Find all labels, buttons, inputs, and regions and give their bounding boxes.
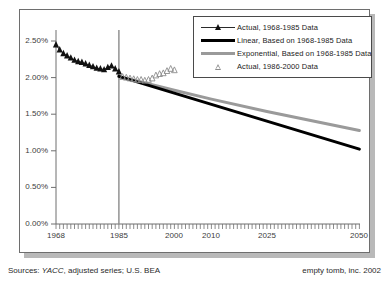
legend-item-exponential: Exponential, Based on 1968-1985 Data (199, 47, 366, 60)
x-tick-label-2000: 2000 (160, 231, 188, 240)
y-tick-label-0-50: 0.50% (16, 182, 48, 191)
y-tick-label-2-50: 2.50% (16, 36, 48, 45)
source-note: Sources: YACC, adjusted series; U.S. BEA (8, 266, 160, 275)
legend-label-linear: Linear, Based on 1968-1985 Data (237, 36, 352, 45)
x-tick-label-2050: 2050 (345, 231, 373, 240)
legend-label-actual-1986-2000: Actual, 1986-2000 Data (237, 62, 318, 71)
source-note-suffix: , adjusted series; U.S. BEA (64, 266, 161, 275)
legend-label-exponential: Exponential, Based on 1968-1985 Data (237, 49, 372, 58)
legend-label-actual-1968-1985: Actual, 1968-1985 Data (237, 23, 318, 32)
y-tick-label-1-00: 1.00% (16, 146, 48, 155)
y-tick-label-0-00: 0.00% (16, 219, 48, 228)
legend-key-thick-grey-bar-icon (199, 47, 237, 60)
legend-item-actual-1968-1985: Actual, 1968-1985 Data (199, 21, 366, 34)
x-tick-label-1968: 1968 (42, 231, 70, 240)
x-tick-label-2025: 2025 (253, 231, 281, 240)
y-tick-label-2-00: 2.00% (16, 73, 48, 82)
source-note-italic: YACC (42, 266, 64, 275)
x-tick-label-1985: 1985 (105, 231, 133, 240)
legend-item-actual-1986-2000: Actual, 1986-2000 Data (199, 60, 366, 73)
credit-note: empty tomb, inc. 2002 (302, 266, 381, 275)
legend-key-thick-black-bar-icon (199, 34, 237, 47)
legend-item-linear: Linear, Based on 1968-1985 Data (199, 34, 366, 47)
source-note-prefix: Sources: (8, 266, 42, 275)
legend-key-line-triangle-icon (199, 21, 237, 34)
chart-legend: Actual, 1968-1985 Data Linear, Based on … (193, 16, 372, 78)
x-tick-label-2010: 2010 (197, 231, 225, 240)
figure-footer: Sources: YACC, adjusted series; U.S. BEA… (0, 266, 391, 284)
y-tick-label-1-50: 1.50% (16, 109, 48, 118)
legend-key-hollow-triangle-icon (199, 60, 237, 73)
